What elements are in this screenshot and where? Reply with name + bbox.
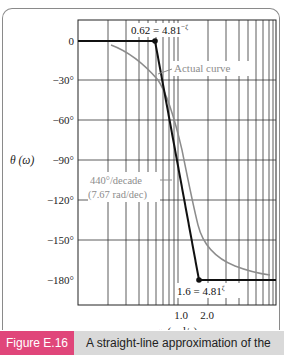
svg-text:−150°: −150° bbox=[47, 234, 74, 246]
caption-tag: Figure E.16 bbox=[0, 331, 74, 355]
y-axis-label: θ (ω) bbox=[10, 154, 34, 167]
phase-plot: 0.62 = 4.81−ζ Actual curve 440°/decade (… bbox=[0, 0, 284, 330]
x-axis-label: ω (rad/s) bbox=[157, 326, 198, 330]
svg-text:1.0: 1.0 bbox=[174, 309, 188, 321]
caption-text: A straight-line approximation of the bbox=[86, 331, 271, 355]
svg-text:0: 0 bbox=[69, 35, 75, 47]
svg-text:−60°: −60° bbox=[52, 114, 74, 126]
svg-text:−90°: −90° bbox=[52, 154, 74, 166]
annotation-actual-curve: Actual curve bbox=[174, 62, 231, 74]
break-point-high bbox=[196, 277, 202, 283]
break-point-low bbox=[152, 38, 158, 44]
annotation-high-break: 1.6 = 4.81ζ bbox=[177, 284, 225, 297]
svg-text:−180°: −180° bbox=[47, 274, 74, 286]
svg-text:−120°: −120° bbox=[47, 194, 74, 206]
annotation-slope: 440°/decade bbox=[90, 175, 142, 186]
figure-caption: Figure E.16 A straight-line approximatio… bbox=[0, 331, 284, 355]
svg-text:−30°: −30° bbox=[52, 74, 74, 86]
annotation-low-break: 0.62 = 4.81−ζ bbox=[131, 23, 188, 36]
x-tick-labels: 1.0 2.0 bbox=[174, 309, 214, 321]
annotation-slope-rad: (7.67 rad/dec) bbox=[88, 189, 147, 201]
svg-text:2.0: 2.0 bbox=[200, 309, 214, 321]
y-tick-labels: 0 −30° −60° −90° −120° −150° −180° bbox=[47, 35, 75, 286]
